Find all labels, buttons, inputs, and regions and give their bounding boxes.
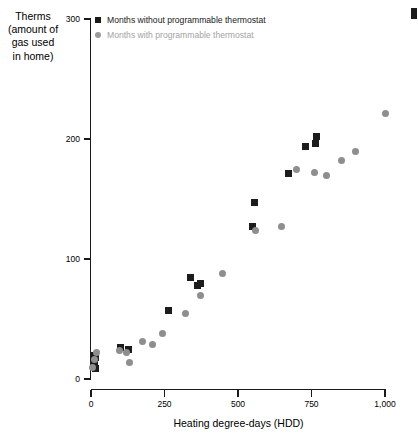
- x-tick-label: 1,000: [360, 400, 410, 409]
- x-tick-label: 250: [140, 400, 190, 409]
- plot-area: [0, 0, 418, 438]
- scatter-chart: Therms (amount of gas used in home) 0100…: [0, 0, 418, 438]
- data-point-without-thermostat: [91, 361, 98, 368]
- x-tick: [237, 390, 238, 397]
- data-point-without-thermostat: [125, 346, 132, 353]
- y-tick: [84, 18, 91, 19]
- y-tick: [84, 378, 91, 379]
- x-tick-label: 750: [287, 400, 337, 409]
- data-point-without-thermostat: [92, 365, 99, 372]
- data-point-with-thermostat: [93, 349, 100, 356]
- data-point-without-thermostat: [187, 274, 194, 281]
- data-point-without-thermostat: [302, 143, 309, 150]
- data-point-without-thermostat: [312, 140, 319, 147]
- y-tick-label: 300: [52, 15, 80, 24]
- data-point-without-thermostat: [92, 354, 99, 361]
- data-point-with-thermostat: [278, 223, 285, 230]
- y-tick-label: 200: [52, 135, 80, 144]
- y-tick-label: 100: [52, 255, 80, 264]
- x-tick-label: 500: [213, 400, 263, 409]
- x-axis-title: Heating degree-days (HDD): [91, 417, 386, 429]
- data-point-without-thermostat: [251, 199, 258, 206]
- data-point-with-thermostat: [149, 341, 156, 348]
- legend-item-with: Months with programmable thermostat: [95, 27, 266, 42]
- data-point-with-thermostat: [182, 310, 189, 317]
- data-point-with-thermostat: [323, 172, 330, 179]
- legend-item-without: Months without programmable thermostat: [95, 12, 266, 27]
- circle-marker-icon: [95, 32, 101, 38]
- x-tick: [164, 390, 165, 397]
- x-tick: [90, 390, 91, 397]
- data-point-with-thermostat: [382, 110, 389, 117]
- y-tick: [84, 258, 91, 259]
- data-point-with-thermostat: [123, 349, 130, 356]
- data-point-without-thermostat: [313, 133, 320, 140]
- data-point-with-thermostat: [311, 169, 318, 176]
- y-tick-label: 0: [52, 375, 80, 384]
- x-tick-label: 0: [66, 400, 116, 409]
- data-point-with-thermostat: [338, 157, 345, 164]
- data-point-with-thermostat: [126, 359, 133, 366]
- data-point-with-thermostat: [116, 347, 123, 354]
- data-point-with-thermostat: [252, 227, 259, 234]
- y-tick: [84, 138, 91, 139]
- data-point-without-thermostat: [197, 280, 204, 287]
- data-point-with-thermostat: [197, 292, 204, 299]
- legend-label-without: Months without programmable thermostat: [107, 15, 266, 25]
- data-point-without-thermostat: [285, 170, 292, 177]
- clipped-edge-marker-icon: [411, 8, 417, 19]
- x-tick: [311, 390, 312, 397]
- data-point-without-thermostat: [117, 344, 124, 351]
- y-axis-line: [90, 19, 91, 380]
- data-point-with-thermostat: [91, 356, 98, 363]
- legend: Months without programmable thermostat M…: [95, 12, 266, 42]
- data-point-with-thermostat: [219, 270, 226, 277]
- data-point-with-thermostat: [159, 330, 166, 337]
- data-point-without-thermostat: [90, 352, 97, 359]
- legend-label-with: Months with programmable thermostat: [107, 30, 254, 40]
- data-point-without-thermostat: [249, 223, 256, 230]
- data-point-without-thermostat: [194, 282, 201, 289]
- data-point-with-thermostat: [352, 148, 359, 155]
- data-point-with-thermostat: [139, 338, 146, 345]
- square-marker-icon: [95, 17, 101, 23]
- x-tick: [384, 390, 385, 397]
- data-point-with-thermostat: [293, 166, 300, 173]
- data-point-without-thermostat: [165, 307, 172, 314]
